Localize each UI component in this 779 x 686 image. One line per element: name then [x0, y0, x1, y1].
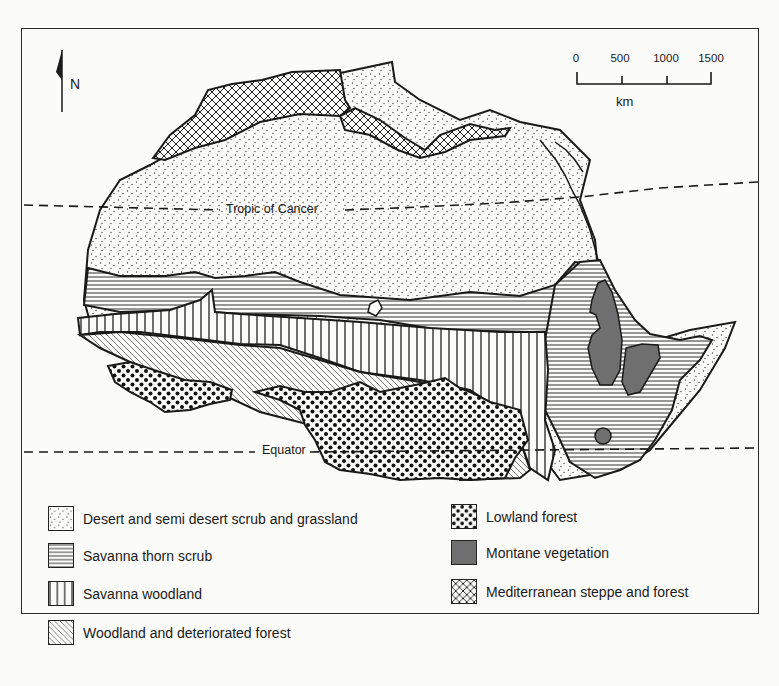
legend-label: Woodland and deteriorated forest: [83, 625, 291, 641]
solid-grey-swatch-icon: [451, 540, 477, 565]
legend-item-desert: Desert and semi desert scrub and grassla…: [48, 506, 358, 531]
crosshatch-swatch-icon: [451, 579, 477, 604]
horizontal-lines-swatch-icon: [48, 543, 74, 568]
diagonal-lines-swatch-icon: [48, 620, 74, 645]
legend-item-montane: Montane vegetation: [451, 540, 609, 565]
tropic-of-cancer-label: Tropic of Cancer: [226, 202, 318, 216]
stipple-swatch-icon: [48, 506, 74, 531]
legend-item-lowland-forest: Lowland forest: [451, 504, 577, 529]
scale-unit: km: [616, 94, 633, 109]
north-label: N: [70, 76, 80, 92]
legend-label: Desert and semi desert scrub and grassla…: [83, 511, 358, 527]
legend-label: Mediterranean steppe and forest: [486, 584, 688, 600]
zone-montane-kilimanjaro: [595, 428, 611, 444]
legend-item-deteriorated-forest: Woodland and deteriorated forest: [48, 620, 291, 645]
scale-bar-line: [570, 70, 720, 90]
scale-tick-1000: 1000: [653, 52, 679, 64]
equator-label: Equator: [262, 443, 306, 457]
legend-label: Savanna thorn scrub: [83, 548, 212, 564]
scale-tick-0: 0: [573, 52, 579, 64]
legend-label: Montane vegetation: [486, 545, 609, 561]
scale-tick-500: 500: [610, 52, 629, 64]
legend-label: Savanna woodland: [83, 586, 202, 602]
scale-tick-1500: 1500: [698, 52, 724, 64]
vertical-lines-swatch-icon: [48, 581, 74, 606]
legend-item-mediterranean: Mediterranean steppe and forest: [451, 579, 688, 604]
dots-swatch-icon: [451, 504, 477, 529]
legend-item-savanna-woodland: Savanna woodland: [48, 581, 202, 606]
legend-label: Lowland forest: [486, 509, 577, 525]
legend-item-thorn-scrub: Savanna thorn scrub: [48, 543, 212, 568]
